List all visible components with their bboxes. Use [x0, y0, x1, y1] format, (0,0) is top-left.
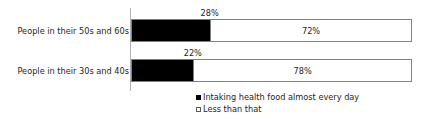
category-label-30s-40s: People in their 30s and 40s — [5, 66, 129, 76]
outside-value-label-row-1: 22% — [165, 48, 221, 58]
plot-area: 28% 22% 72% 78% — [131, 8, 412, 91]
outside-value-label-row-0: 28% — [182, 8, 238, 18]
filled-square-icon — [196, 95, 201, 100]
bar-segment-primary — [132, 60, 193, 81]
legend-item-secondary: Less than that — [196, 104, 359, 115]
segment-value-label: 78% — [294, 66, 312, 76]
legend-label-secondary: Less than that — [203, 104, 261, 115]
bar-row: 78% — [131, 59, 412, 82]
chart-legend: Intaking health food almost every day Le… — [196, 92, 359, 115]
bar-segment-secondary: 78% — [193, 60, 411, 81]
stacked-bar-chart: People in their 50s and 60s People in th… — [0, 0, 423, 119]
bar-segment-primary — [132, 20, 210, 41]
segment-value-label: 72% — [302, 26, 320, 36]
legend-item-primary: Intaking health food almost every day — [196, 92, 359, 103]
bar-row: 72% — [131, 19, 412, 42]
category-label-50s-60s: People in their 50s and 60s — [5, 26, 129, 36]
bar-segment-secondary: 72% — [210, 20, 411, 41]
legend-label-primary: Intaking health food almost every day — [203, 92, 359, 103]
hollow-square-icon — [196, 107, 201, 112]
